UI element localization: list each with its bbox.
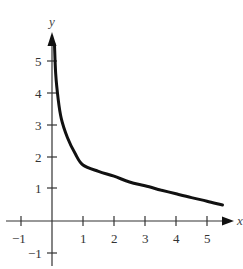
x-tick-label: 2	[111, 231, 118, 246]
x-axis-arrow-icon	[222, 217, 234, 226]
x-axis-label: x	[236, 213, 243, 228]
y-tick-label: −1	[28, 246, 42, 261]
x-tick-label: 4	[173, 231, 180, 246]
y-tick-label: 4	[35, 86, 42, 101]
y-tick-label: 2	[35, 150, 42, 165]
y-tick-label: 5	[35, 54, 42, 69]
x-tick-label: 3	[142, 231, 149, 246]
x-tick-label: 5	[204, 231, 211, 246]
chart: −1 1 2 3 4 5 5 4 3 2 1 −1 y x	[0, 0, 243, 269]
x-tick-label: 1	[80, 231, 87, 246]
y-tick-label: 3	[35, 118, 42, 133]
y-axis-label: y	[47, 14, 55, 29]
data-curve	[55, 45, 223, 205]
y-tick-label: 1	[35, 181, 42, 196]
x-tick-label: −1	[12, 231, 26, 246]
